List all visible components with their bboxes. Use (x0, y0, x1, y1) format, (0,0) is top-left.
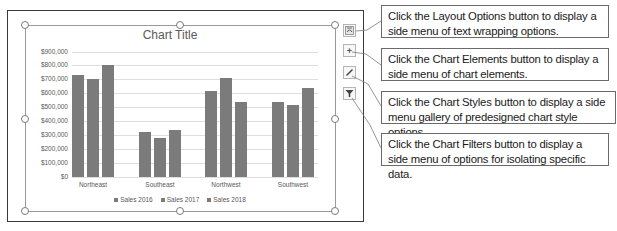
y-axis-tick-label: $400,000 (24, 117, 68, 124)
y-axis-tick-label: $200,000 (24, 145, 68, 152)
x-axis-category-label: Southeast (130, 181, 190, 188)
bar-northeast-sales-2018[interactable] (102, 65, 114, 177)
resize-handle-bottom-left[interactable] (21, 207, 29, 215)
y-axis-tick-label: $700,000 (24, 75, 68, 82)
y-axis-tick-label: $900,000 (24, 48, 68, 55)
resize-handle-top-right[interactable] (331, 21, 339, 29)
callout-layout-options: Click the Layout Options button to displ… (381, 5, 609, 38)
bar-southeast-sales-2016[interactable] (139, 132, 151, 177)
legend-item-2018: Sales 2018 (207, 196, 246, 203)
bar-southeast-sales-2018[interactable] (169, 130, 181, 177)
brush-icon (345, 68, 354, 77)
y-axis-tick-label: $0 (24, 173, 68, 180)
legend-label: Sales 2018 (213, 196, 246, 203)
bar-northeast-sales-2016[interactable] (72, 75, 84, 177)
resize-handle-bottom-middle[interactable] (176, 207, 184, 215)
y-axis-tick-label: $300,000 (24, 131, 68, 138)
chart-legend[interactable]: Sales 2016 Sales 2017 Sales 2018 (100, 196, 260, 203)
x-axis-category-label: Northwest (196, 181, 256, 188)
x-axis-category-label: Southwest (263, 181, 323, 188)
resize-handle-middle-right[interactable] (331, 115, 339, 123)
x-axis-category-label: Northeast (63, 181, 123, 188)
bar-southwest-sales-2018[interactable] (302, 88, 314, 177)
chart-filters-button[interactable] (343, 87, 356, 100)
chart-styles-button[interactable] (343, 66, 356, 79)
y-axis-tick-label: $600,000 (24, 89, 68, 96)
callout-chart-styles: Click the Chart Styles button to display… (381, 91, 616, 124)
bar-southwest-sales-2016[interactable] (272, 102, 284, 177)
bar-northwest-sales-2016[interactable] (205, 91, 217, 177)
bar-southeast-sales-2017[interactable] (154, 138, 166, 177)
legend-swatch (161, 198, 165, 202)
callout-chart-elements: Click the Chart Elements button to displ… (381, 48, 609, 81)
bar-northwest-sales-2018[interactable] (235, 102, 247, 177)
legend-swatch (114, 198, 118, 202)
chart-title[interactable]: Chart Title (120, 28, 220, 42)
legend-swatch (207, 198, 211, 202)
filter-icon (345, 89, 354, 98)
gridline (72, 177, 318, 178)
bar-southwest-sales-2017[interactable] (287, 105, 299, 177)
resize-handle-top-left[interactable] (21, 21, 29, 29)
y-axis-tick-label: $100,000 (24, 159, 68, 166)
legend-label: Sales 2016 (120, 196, 153, 203)
layout-options-icon (345, 26, 354, 35)
callout-chart-filters: Click the Chart Filters button to displa… (381, 133, 609, 166)
y-axis-tick-label: $800,000 (24, 61, 68, 68)
y-axis-tick-label: $500,000 (24, 103, 68, 110)
plus-icon: + (347, 46, 352, 56)
resize-handle-bottom-right[interactable] (331, 207, 339, 215)
bar-northeast-sales-2017[interactable] (87, 79, 99, 177)
legend-item-2017: Sales 2017 (161, 196, 200, 203)
layout-options-button[interactable] (343, 24, 356, 37)
chart-elements-button[interactable]: + (343, 44, 356, 57)
gridline (72, 52, 318, 53)
legend-label: Sales 2017 (167, 196, 200, 203)
legend-item-2016: Sales 2016 (114, 196, 153, 203)
bar-northwest-sales-2017[interactable] (220, 78, 232, 177)
